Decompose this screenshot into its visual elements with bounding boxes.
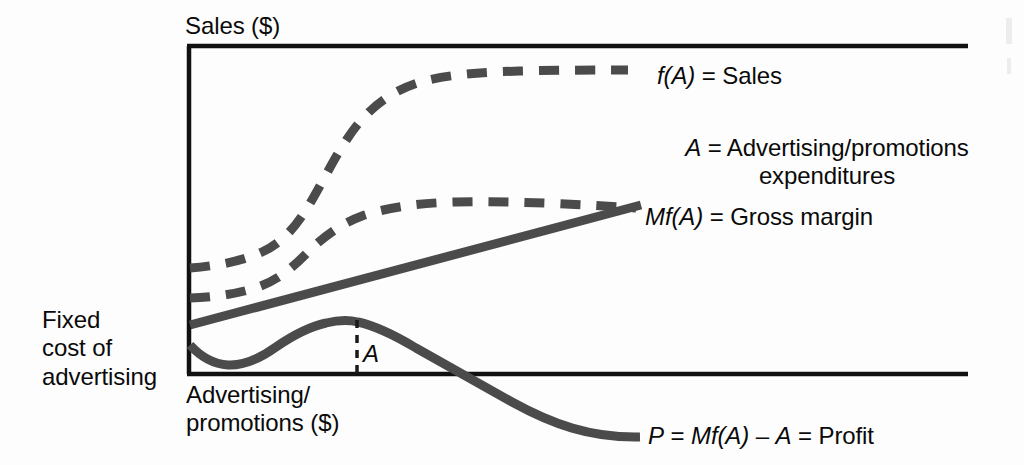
legend-label-profit: P = Mf(A) – A = Profit [648, 422, 874, 450]
fixed-cost-annotation: Fixedcost ofadvertising [42, 306, 157, 391]
legend-label-gross-margin: Mf(A) = Gross margin [645, 203, 873, 231]
optimum-a-marker-label: A [363, 340, 379, 368]
gross-margin-curve [190, 202, 636, 298]
sales-curve [190, 70, 628, 268]
concept-graph-canvas [0, 0, 1024, 465]
legend-label-advertising: A = Advertising/promotionsexpenditures [662, 134, 992, 191]
page-edge-artifact-top [1006, 18, 1012, 44]
advertising-expenditure-line [190, 205, 641, 325]
legend-label-sales: f(A) = Sales [657, 62, 782, 90]
y-axis-title: Sales ($) [185, 12, 280, 40]
figure-page: Sales ($) Advertising/promotions ($) Fix… [0, 0, 1024, 465]
x-axis-title: Advertising/promotions ($) [186, 381, 339, 438]
page-edge-artifact-bottom [1007, 58, 1011, 74]
